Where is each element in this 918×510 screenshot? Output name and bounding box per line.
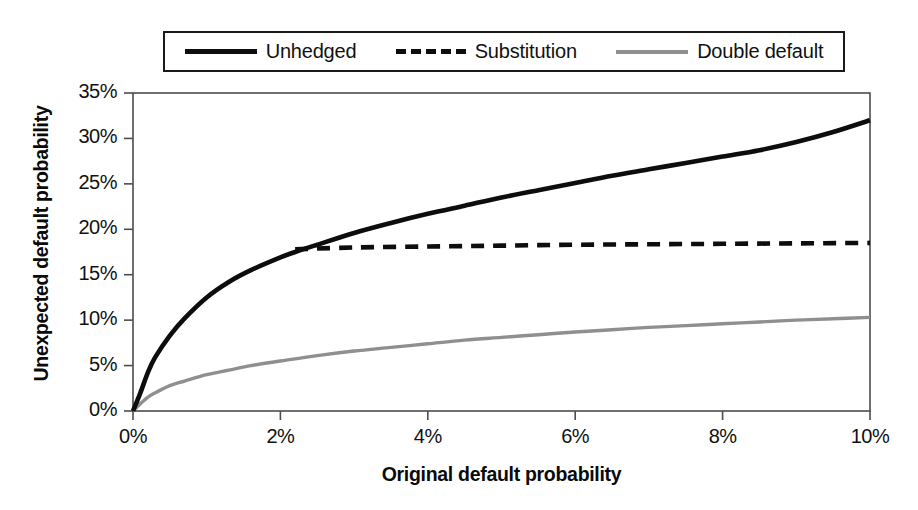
x-tick-label: 8% (683, 425, 763, 448)
x-tick-label: 0% (93, 425, 173, 448)
data-series-layer (133, 120, 870, 411)
x-tick-label: 4% (388, 425, 468, 448)
x-tick-label: 10% (830, 425, 910, 448)
y-tick-label: 30% (51, 125, 117, 148)
x-axis-title: Original default probability (133, 463, 870, 486)
y-tick-label: 35% (51, 80, 117, 103)
series-line-substitution (295, 243, 870, 249)
plot-frame (133, 93, 870, 411)
series-line-double-default (133, 317, 870, 411)
plot-border (133, 93, 870, 411)
x-tick-label: 2% (240, 425, 320, 448)
y-tick-label: 0% (51, 398, 117, 421)
axis-tick-marks (124, 93, 870, 420)
y-axis-title: Unexpected default probability (30, 84, 53, 404)
chart-container: Unhedged Substitution Double default Une… (0, 0, 918, 510)
y-tick-label: 10% (51, 307, 117, 330)
y-tick-label: 25% (51, 171, 117, 194)
y-tick-label: 5% (51, 353, 117, 376)
y-tick-label: 15% (51, 262, 117, 285)
y-tick-label: 20% (51, 216, 117, 239)
x-tick-label: 6% (535, 425, 615, 448)
